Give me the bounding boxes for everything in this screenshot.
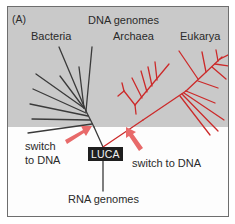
bacteria-label: Bacteria — [31, 30, 71, 42]
switch-to-dna-left-line2: to DNA — [25, 154, 60, 166]
dna-genomes-title: DNA genomes — [88, 14, 159, 26]
right-arrow-icon — [126, 127, 143, 151]
eukarya-label: Eukarya — [180, 30, 220, 42]
panel-label: (A) — [12, 13, 26, 25]
luca-node-label: LUCA — [88, 147, 123, 161]
switch-to-dna-left-line1: switch — [25, 140, 56, 152]
bacteria-branches — [28, 47, 103, 191]
archaea-label: Archaea — [113, 30, 154, 42]
figure-frame: (A) DNA genomes Bacteria Archaea Eukarya… — [7, 6, 229, 217]
rna-genomes-label: RNA genomes — [68, 193, 139, 205]
archaea-eukarya-branches — [103, 50, 229, 147]
switch-to-dna-right: switch to DNA — [132, 157, 201, 169]
left-arrow-icon — [65, 126, 92, 144]
